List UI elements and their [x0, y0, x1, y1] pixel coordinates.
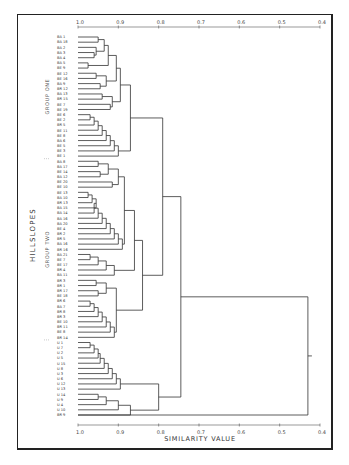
axis-tick-label: 0.6: [237, 19, 245, 25]
leaf-label: BR 14: [57, 336, 68, 340]
leaf-label: BA 21: [57, 253, 68, 257]
leaf-label: BE 7: [57, 258, 65, 262]
leaf-label: U 14: [57, 393, 66, 397]
leaf-label: BE 20: [57, 180, 68, 184]
axis-tick-label: 0.9: [116, 19, 124, 25]
leaf-label: BE 2: [57, 118, 65, 122]
leaf-label: BA 3: [57, 51, 65, 55]
leaf-label: U 10: [57, 408, 66, 412]
leaf-label: BR 9: [57, 413, 66, 417]
leaf-label: U 1: [57, 341, 63, 345]
axis-tick-label: 0.4: [318, 429, 326, 435]
leaf-label: BA 7: [57, 305, 65, 309]
leaf-label: BE 9: [57, 66, 66, 70]
leaf-label: BE 10: [57, 320, 68, 324]
axis-tick-label: 0.9: [116, 429, 124, 435]
leaf-label: BR 11: [57, 325, 68, 329]
leaf-label: BA 18: [57, 40, 68, 44]
leaf-label: BA 16: [57, 242, 68, 246]
leaf-label: U 9: [57, 398, 64, 402]
leaf-label: BE 10: [57, 185, 68, 189]
leaf-label: BE 3: [57, 149, 65, 153]
axis-tick-label: 0.6: [237, 429, 245, 435]
leaf-label: BE 8: [57, 134, 66, 138]
leaf-label: BR 5: [57, 237, 65, 241]
leaf-label: BA 14: [57, 211, 68, 215]
axis-tick-label: 1.0: [76, 429, 84, 435]
leaf-label: BA 10: [57, 196, 68, 200]
leaf-label: BA 13: [57, 92, 68, 96]
leaf-label: BE 1: [57, 154, 65, 158]
leaf-label: BE 4: [57, 227, 66, 231]
leaf-label: BR 1: [57, 284, 65, 288]
leaf-label: BA 1: [57, 35, 65, 39]
x-axis-title: SIMILARITY VALUE: [164, 435, 236, 443]
leaf-label: BE 13: [57, 191, 67, 195]
leaf-label: BR 2: [57, 232, 65, 236]
leaf-label: BR 6: [57, 299, 66, 303]
leaf-label: BE 7: [57, 103, 65, 107]
group-one-label: GROUP ONE: [44, 79, 50, 115]
leaf-label: BE 16: [57, 77, 68, 81]
leaf-label: BE 5: [57, 144, 65, 148]
leaf-label: U 15: [57, 362, 65, 366]
leaf-label: BA 4: [57, 56, 66, 60]
leaf-label: U 3: [57, 372, 63, 376]
leaf-label: BR 12: [57, 87, 68, 91]
leaf-label: BE 6: [57, 113, 66, 117]
axis-tick-label: 0.8: [157, 19, 165, 25]
leaf-label: BA 8: [57, 160, 66, 164]
leaf-label: BA 15: [57, 206, 68, 210]
leaf-label: BE 11: [57, 129, 67, 133]
axis-tick-label: 0.5: [278, 19, 286, 25]
leaf-label: U 12: [57, 382, 65, 386]
leaf-label: BE 14: [57, 170, 68, 174]
leaf-label: U 6: [57, 377, 64, 381]
leaf-label: BA 12: [57, 175, 68, 179]
leaf-label: BA 11: [57, 273, 68, 277]
leaf-label: U 5: [57, 356, 63, 360]
leaf-label: U 13: [57, 387, 65, 391]
leaf-label: BR 13: [57, 201, 68, 205]
axis-tick-label: 1.0: [76, 19, 84, 25]
leaf-label: BR 15: [57, 97, 68, 101]
leaf-label: BA 9: [57, 82, 66, 86]
leaf-label: U 7: [57, 346, 63, 350]
leaf-label: U 4: [57, 403, 64, 407]
leaf-label: BR 3: [57, 279, 65, 283]
leaf-label: BR 4: [57, 268, 66, 272]
dendrogram-chart: 1.00.90.80.70.60.50.41.00.90.80.70.60.50…: [0, 0, 349, 465]
leaf-label: BA 6: [57, 139, 66, 143]
leaf-label: BR 5: [57, 123, 65, 127]
leaf-label: BA 17: [57, 165, 68, 169]
leaf-label: BA 5: [57, 61, 65, 65]
axis-tick-label: 0.7: [197, 19, 205, 25]
leaf-label: BA 20: [57, 222, 68, 226]
leaf-label: BA 16: [57, 217, 68, 221]
axis-tick-label: 0.5: [278, 429, 286, 435]
axis-tick-label: 0.4: [318, 19, 326, 25]
leaf-label: BE 12: [57, 72, 67, 76]
leaf-label: BR 16: [57, 248, 68, 252]
leaf-label: BE 8: [57, 330, 66, 334]
group-two-label: GROUP TWO: [44, 231, 50, 268]
leaf-label: BR 3: [57, 315, 65, 319]
leaf-label: BR 17: [57, 289, 68, 293]
leaf-label: BE 18: [57, 294, 68, 298]
leaf-label: U 2: [57, 351, 63, 355]
hillslopes-label: HILLSLOPES: [29, 208, 37, 262]
leaf-label: BA 2: [57, 46, 65, 50]
leaf-label: BE 17: [57, 263, 67, 267]
leaf-label: U 8: [57, 367, 64, 371]
leaf-label: BE 19: [57, 108, 68, 112]
leaf-label: BR 8: [57, 310, 66, 314]
